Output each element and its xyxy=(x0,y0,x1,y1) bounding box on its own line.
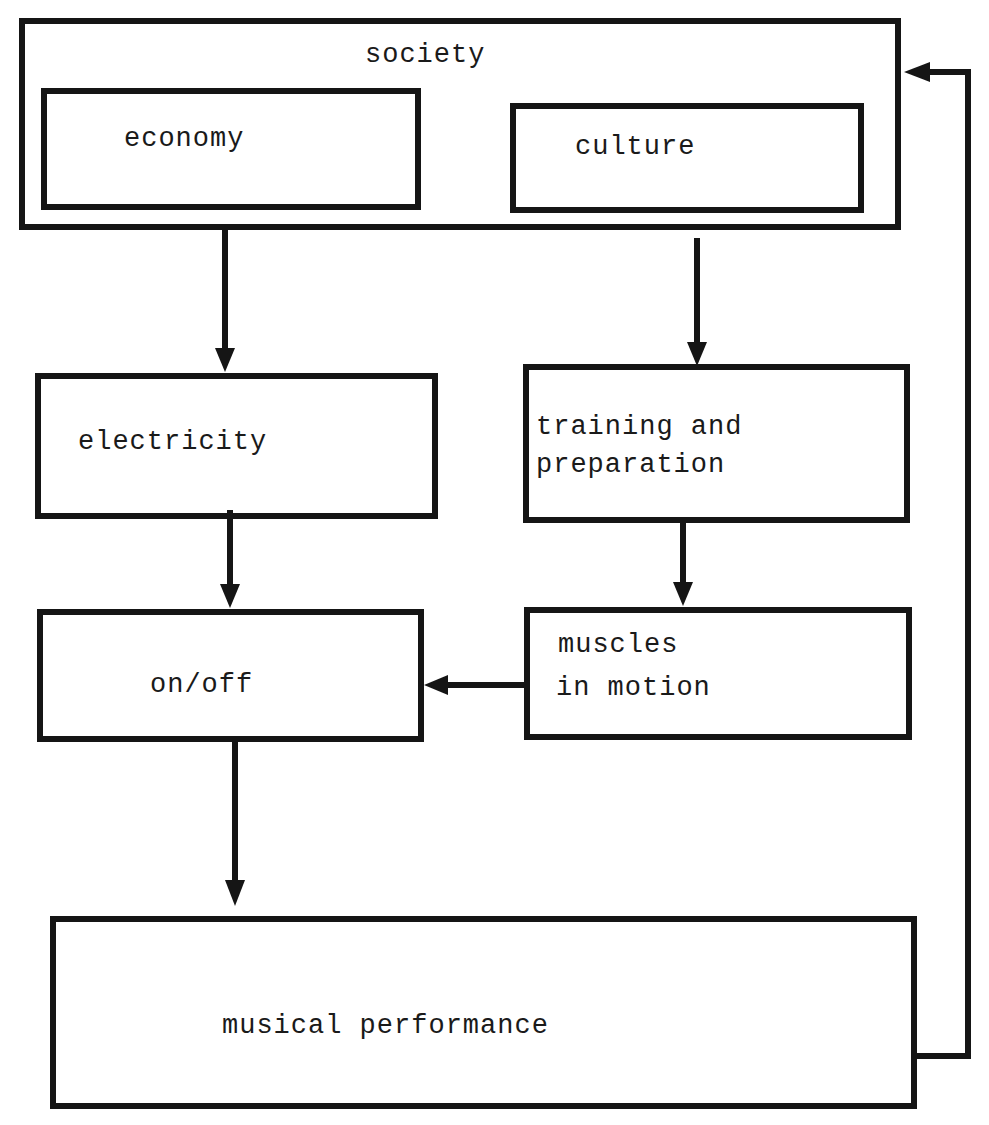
node-training xyxy=(523,364,910,523)
label-muscles-line1: muscles xyxy=(558,630,678,660)
label-muscles-line2: in motion xyxy=(556,673,711,703)
label-onoff: on/off xyxy=(150,670,253,700)
arrow-onoff-to-performance xyxy=(225,738,245,906)
arrow-muscles-to-onoff xyxy=(424,675,526,695)
label-society: society xyxy=(365,40,485,70)
label-musical-performance: musical performance xyxy=(222,1011,549,1041)
label-economy: economy xyxy=(124,124,244,154)
label-culture: culture xyxy=(575,132,695,162)
arrow-training-to-muscles xyxy=(673,520,693,606)
arrow-economy-to-electricity xyxy=(215,228,235,372)
label-training-line1: training and xyxy=(536,412,742,442)
label-electricity: electricity xyxy=(78,427,267,457)
label-training-line2: preparation xyxy=(536,450,725,480)
arrow-electricity-to-onoff xyxy=(220,510,240,608)
arrow-culture-to-training xyxy=(687,238,707,366)
arrow-performance-to-society xyxy=(904,62,968,1056)
